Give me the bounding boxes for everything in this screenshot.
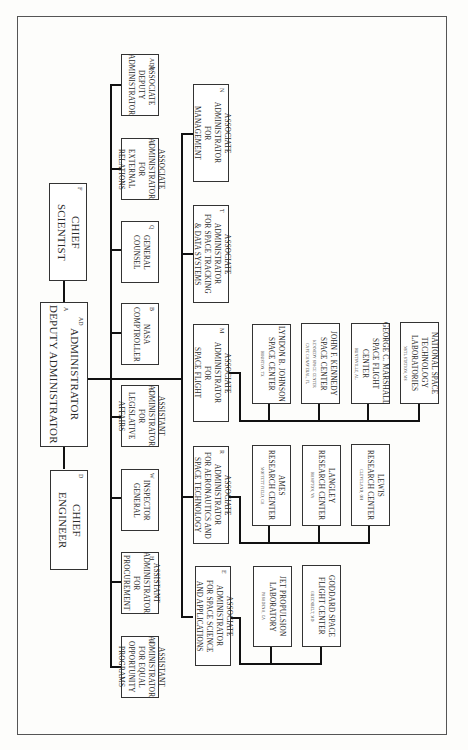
- box-line: INSPECTOR: [141, 480, 150, 521]
- connector: [368, 525, 370, 543]
- box-line: RESEARCH CENTER: [316, 450, 325, 520]
- box-line: TECHNOLOGY: [419, 337, 428, 388]
- connector: [239, 663, 322, 665]
- box-line: RESEARCH CENTER: [365, 450, 374, 520]
- connector: [239, 420, 420, 422]
- box-line: FOR: [136, 409, 145, 424]
- box-line: SPACE CENTER: [266, 337, 275, 391]
- box-line: ASSISTANT: [151, 563, 160, 603]
- connector: [318, 403, 320, 421]
- box-line: COUNSEL: [131, 235, 140, 270]
- box-line: GENERAL: [131, 483, 140, 518]
- center-location: MOFFETT FIELD, CA: [259, 467, 265, 505]
- box-line: SPACE FLIGHT: [192, 347, 201, 398]
- connector: [320, 646, 322, 664]
- box-line: COMPTROLLER: [131, 307, 140, 362]
- box-line: LANGLEY: [326, 468, 335, 503]
- box-line: NATIONAL SPACE: [429, 332, 438, 394]
- box-line: EXTERNAL: [126, 149, 135, 189]
- field-center-box: LYNDON B. JOHNSON SPACE CENTER HOUSTON, …: [252, 324, 291, 404]
- chief-engineer-box: D CHIEF ENGINEER: [50, 470, 88, 570]
- connector: [268, 525, 270, 543]
- box-line: ASSISTANT: [156, 396, 165, 436]
- box-line: DEPUTY: [136, 70, 145, 100]
- administrator-box: A AD ADMINISTRATOR DEPUTY ADMINISTRATOR: [40, 302, 88, 447]
- box-line: ASSOCIATE: [224, 596, 233, 637]
- box-line: ASSOCIATE: [146, 65, 155, 106]
- box-line: FOR: [202, 366, 211, 381]
- box-line: PROCUREMENT: [121, 555, 130, 611]
- connector: [239, 372, 241, 422]
- box-line: CHIEF: [69, 216, 82, 249]
- connector: [367, 403, 369, 421]
- box-line: ADMINISTRATOR: [146, 385, 155, 446]
- box-line: SCIENTIST: [55, 204, 68, 261]
- box-line: ADMINISTRATOR: [146, 636, 155, 697]
- box-line: FOR: [202, 126, 211, 141]
- box-line: & DATA SYSTEMS: [192, 223, 201, 286]
- box-line: ADMINISTRATOR: [212, 342, 221, 403]
- staff-office-box: W INSPECTOR GENERAL: [121, 469, 159, 531]
- box-line: LABORATORY: [267, 582, 276, 632]
- staff-office-box: B NASA COMPTROLLER: [121, 303, 159, 365]
- box-line: FOR SPACE TRACKING: [202, 214, 211, 294]
- center-location: CAPE CANAVERAL, FL: [304, 343, 310, 384]
- connector: [87, 378, 182, 380]
- program-office-box: E ASSOCIATE ADMINISTRATOR FOR SPACE SCIE…: [195, 566, 231, 666]
- box-line: SPACE FLIGHT: [370, 338, 379, 389]
- box-line: ASSOCIATE: [222, 113, 231, 154]
- connector: [239, 617, 241, 665]
- box-line: ASSOCIATE: [222, 475, 231, 516]
- chief-scientist-box: F CHIEF SCIENTIST: [49, 183, 87, 281]
- center-location: GREENBELT, MD: [309, 591, 315, 622]
- box-line: JOHN F. KENNEDY: [328, 331, 337, 396]
- connector: [239, 542, 370, 544]
- box-line: ENGINEER: [56, 492, 69, 549]
- box-line: AMES: [276, 475, 285, 496]
- box-line: GODDARD SPACE: [326, 575, 335, 637]
- box-line: FOR: [136, 162, 145, 177]
- box-line: FOR AERONAUTICS AND: [202, 452, 211, 539]
- box-line: AFFAIRS: [116, 401, 125, 431]
- program-office-box: R ASSOCIATE ADMINISTRATOR FOR AERONAUTIC…: [193, 446, 229, 544]
- connector: [181, 133, 183, 617]
- staff-office-box: C ASSISTANT ADMINISTRATOR FOR LEGISLATIV…: [121, 385, 159, 447]
- field-center-box: GEORGE C. MARSHALL SPACE FLIGHT CENTER H…: [351, 323, 390, 404]
- staff-office-box: Q GENERAL COUNSEL: [121, 221, 159, 283]
- box-line: MANAGEMENT: [192, 106, 201, 160]
- box-line: KENNEDY SPACE CENTER: [311, 340, 317, 388]
- staff-office-box: H ASSISTANT ADMINISTRATOR FOR PROCUREMEN…: [121, 552, 159, 614]
- box-line: ASSISTANT: [156, 647, 165, 687]
- box-line: GENERAL: [141, 235, 150, 270]
- box-line: ASSOCIATE: [222, 234, 231, 275]
- connector: [239, 496, 241, 544]
- field-center-box: AMES RESEARCH CENTER MOFFETT FIELD, CA: [252, 445, 291, 526]
- org-chart: F CHIEF SCIENTIST A AD ADMINISTRATOR DEP…: [0, 0, 468, 750]
- program-office-box: M ASSOCIATE ADMINISTRATOR FOR SPACE FLIG…: [193, 324, 229, 422]
- staff-office-box: ADB ASSOCIATE DEPUTY ADMINISTRATOR: [121, 54, 159, 116]
- center-location: HAMPTON, VA: [309, 472, 315, 498]
- box-line: ADMINISTRATOR: [212, 102, 221, 163]
- box-line: ADMINISTRATOR: [146, 138, 155, 199]
- box-line: ADMINISTRATOR: [212, 464, 221, 525]
- staff-office-box: L ASSOCIATE ADMINISTRATOR FOR EXTERNAL R…: [121, 138, 159, 200]
- connector: [63, 447, 65, 469]
- box-line: ADMINISTRATOR: [141, 552, 150, 613]
- box-line: ASSOCIATE: [156, 149, 165, 190]
- box-line: LABORATORIES: [409, 335, 418, 391]
- field-center-box: LANGLEY RESEARCH CENTER HAMPTON, VA: [302, 445, 341, 526]
- connector: [318, 525, 320, 543]
- box-line: PROGRAMS: [116, 646, 125, 687]
- field-center-box: NATIONAL SPACE TECHNOLOGY LABORATORIES N…: [400, 322, 439, 404]
- box-line: FOR EQUAL: [136, 646, 145, 688]
- center-location: PASADENA, CA: [260, 592, 266, 620]
- box-line: DEPUTY ADMINISTRATOR: [47, 305, 60, 444]
- box-line: ADMINISTRATOR: [68, 328, 81, 420]
- box-line: FOR: [131, 576, 140, 591]
- box-line: CENTER: [360, 349, 369, 378]
- box-line: LYNDON B. JOHNSON: [276, 326, 285, 402]
- center-location: NSTL STATION, MS: [402, 346, 408, 381]
- box-line: FOR SPACE SCIENCE: [204, 580, 213, 653]
- box-line: RELATIONS: [116, 149, 125, 190]
- box-line: GEORGE C. MARSHALL: [380, 322, 389, 404]
